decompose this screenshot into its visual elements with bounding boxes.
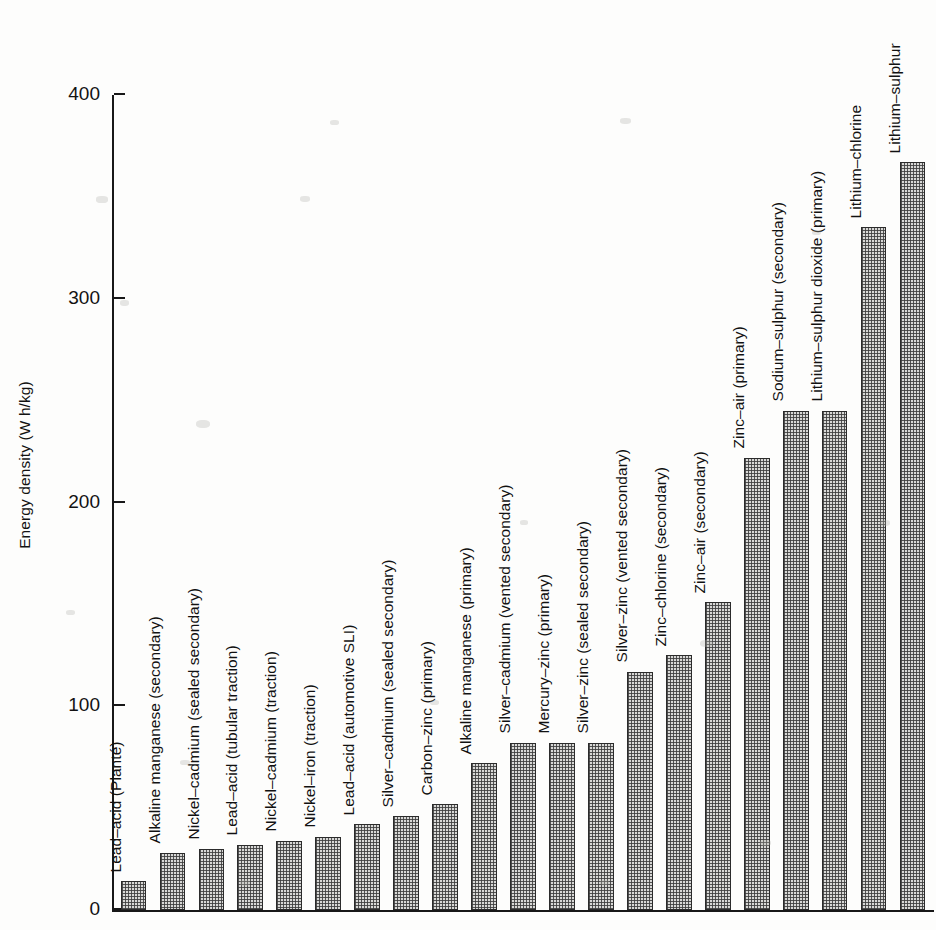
bar-category-label: Sodium–sulphur (secondary) [769,202,785,401]
bar-group: Nickel–iron (traction) [315,95,341,910]
bar-category-label: Zinc–chlorine (secondary) [652,467,668,647]
y-tick-label: 300 [68,287,100,309]
bar [783,411,809,910]
battery-energy-density-bar-chart: Energy density (W h/kg) 0100200300400 Le… [0,0,936,930]
bar-group: Mercury–zinc (primary) [549,95,575,910]
bar [121,881,147,910]
bar-category-label: Nickel–iron (traction) [302,684,318,827]
y-axis-title: Energy density (W h/kg) [10,0,40,930]
bar-category-label: Nickel–cadmium (sealed secondary) [185,588,201,839]
bar-category-label: Silver–zinc (vented secondary) [614,449,630,662]
bar-category-label: Lithium–chlorine [847,105,863,219]
bar [900,162,926,910]
bar-category-label: Lead–acid (tubular traction) [224,646,240,836]
bar-group: Sodium–sulphur (secondary) [783,95,809,910]
bar-group: Lead–acid (Planté) [121,95,147,910]
paper-texture-fleck [66,610,75,615]
bar-group: Zinc–air (secondary) [705,95,731,910]
bar [549,743,575,910]
bar-group: Carbon–zinc (primary) [432,95,458,910]
bar-group: Lithium–sulphur dioxide (primary) [822,95,848,910]
bar-group: Nickel–cadmium (traction) [276,95,302,910]
bar [861,227,887,910]
bar-category-label: Lead–acid (Planté) [107,741,123,872]
bar-group: Alkaline manganese (primary) [471,95,497,910]
bar-category-label: Zinc–air (secondary) [691,451,707,593]
bar-group: Zinc–air (primary) [744,95,770,910]
bar [627,672,653,910]
bar [588,743,614,910]
bar [393,816,419,910]
bar-category-label: Alkaline manganese (secondary) [146,617,162,844]
bar-group: Lithium–sulphur [900,95,926,910]
bar-group: Lead–acid (tubular traction) [237,95,263,910]
bar-group: Lithium–chlorine [861,95,887,910]
bar [315,837,341,910]
bar [160,853,186,910]
bar-category-label: Silver–cadmium (sealed secondary) [380,559,396,807]
bar-group: Silver–cadmium (sealed secondary) [393,95,419,910]
bar-group: Silver–zinc (sealed secondary) [588,95,614,910]
bar-group: Zinc–chlorine (secondary) [666,95,692,910]
y-tick-label: 200 [68,491,100,513]
y-tick-label: 400 [68,83,100,105]
y-axis-title-text: Energy density (W h/kg) [16,381,34,549]
bar-category-label: Alkaline manganese (primary) [458,547,474,754]
bar [822,411,848,910]
bar [705,602,731,910]
bar-category-label: Mercury–zinc (primary) [536,574,552,734]
bar [471,763,497,910]
bar-category-label: Zinc–air (primary) [730,326,746,448]
bar-series: Lead–acid (Planté)Alkaline manganese (se… [114,95,932,910]
bar-group: Silver–cadmium (vented secondary) [510,95,536,910]
bar-category-label: Silver–cadmium (vented secondary) [497,485,513,734]
y-tick-label: 0 [89,898,100,920]
bar [199,849,225,910]
bar [666,655,692,910]
bar-category-label: Lead–acid (automotive SLI) [341,625,357,816]
bar-group: Lead–acid (automotive SLI) [354,95,380,910]
bar-category-label: Carbon–zinc (primary) [419,641,435,795]
bar-category-label: Lithium–sulphur [886,43,902,153]
bar-category-label: Lithium–sulphur dioxide (primary) [808,171,824,402]
bar-group: Nickel–cadmium (sealed secondary) [199,95,225,910]
x-axis-line [112,910,934,912]
bar [744,458,770,910]
bar-group: Silver–zinc (vented secondary) [627,95,653,910]
bar [432,804,458,910]
plot-area: 0100200300400 Lead–acid (Planté)Alkaline… [112,95,932,910]
bar-group: Alkaline manganese (secondary) [160,95,186,910]
y-tick-label: 100 [68,694,100,716]
bar-category-label: Nickel–cadmium (traction) [263,651,279,831]
bar [237,845,263,910]
bar [510,743,536,910]
bar [276,841,302,910]
paper-texture-fleck [96,196,108,203]
bar [354,824,380,910]
bar-category-label: Silver–zinc (sealed secondary) [575,521,591,734]
